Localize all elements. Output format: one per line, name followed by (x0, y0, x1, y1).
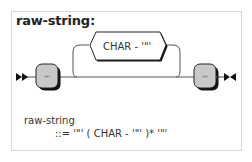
ebnf-rule-name: raw-string (24, 115, 75, 126)
end-arrow-icon (216, 73, 236, 81)
svg-text:'"': '"' (202, 74, 208, 81)
loop-right (164, 45, 180, 77)
terminal-quote-open: '"' (36, 64, 61, 91)
start-arrow-icon (16, 73, 28, 81)
char-nonterminal: CHAR - '"' (90, 32, 168, 62)
svg-text:CHAR - '"': CHAR - '"' (103, 41, 151, 52)
svg-text:'"': '"' (44, 74, 50, 81)
terminal-quote-close: '"' (194, 64, 219, 91)
ebnf-rule-definition: ::= '"' ( CHAR - '"' )* '"' (55, 128, 167, 139)
loop-left (73, 45, 89, 77)
